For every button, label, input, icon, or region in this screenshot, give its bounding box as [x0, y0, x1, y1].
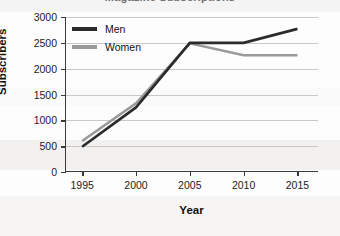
- y-axis-title: Subscribers: [0, 29, 8, 95]
- legend-swatch-icon: [72, 27, 97, 31]
- x-axis-tick: [82, 171, 83, 176]
- x-axis-label: 2015: [286, 179, 309, 191]
- y-axis-label: 3000: [34, 11, 57, 23]
- chart-title: Magazine Subscriptions: [0, 0, 340, 3]
- x-axis-tick: [190, 171, 191, 176]
- x-axis-label: 1995: [70, 179, 93, 191]
- y-axis-tick: [61, 43, 66, 44]
- x-axis-tick: [244, 171, 245, 176]
- legend-label: Women: [105, 41, 141, 53]
- chart-figure: Magazine Subscriptions Subscribers Year …: [0, 0, 340, 236]
- legend-label: Men: [105, 23, 125, 35]
- y-axis-tick: [61, 69, 66, 70]
- y-axis-tick: [61, 172, 66, 173]
- y-axis-tick: [61, 146, 66, 147]
- y-axis-label: 1500: [34, 89, 57, 101]
- y-axis-tick: [61, 120, 66, 121]
- x-axis-label: 2010: [232, 179, 255, 191]
- y-axis-label: 500: [39, 140, 57, 152]
- legend-item-men[interactable]: Men: [72, 23, 141, 35]
- series-line-women: [82, 43, 297, 141]
- legend-swatch-icon: [72, 45, 97, 49]
- y-axis-label: 1000: [34, 114, 57, 126]
- x-axis-title: Year: [65, 204, 318, 216]
- scan-band: [0, 196, 340, 236]
- legend-item-women[interactable]: Women: [72, 41, 141, 53]
- y-axis-label: 0: [51, 166, 57, 178]
- y-axis-label: 2000: [34, 63, 57, 75]
- x-axis-tick: [136, 171, 137, 176]
- x-axis-label: 2000: [124, 179, 147, 191]
- y-axis-tick: [61, 95, 66, 96]
- x-axis-label: 2005: [178, 179, 201, 191]
- y-axis-label: 2500: [34, 37, 57, 49]
- x-axis-tick: [297, 171, 298, 176]
- y-axis-tick: [61, 17, 66, 18]
- chart-legend: MenWomen: [72, 23, 141, 53]
